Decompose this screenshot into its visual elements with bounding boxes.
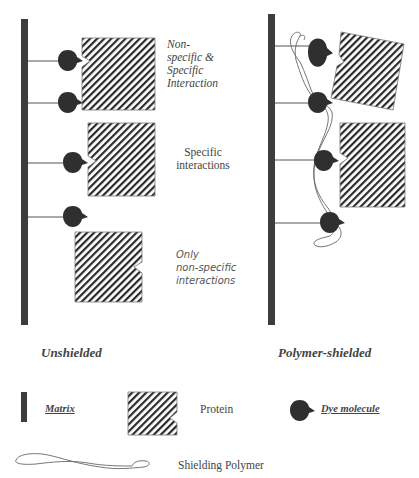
annotation-specific: Specific interactions [168,146,238,172]
legend-label-polymer: Shielding Polymer [178,459,264,472]
legend-label-dye: Dye molecule [321,403,380,415]
unshielded-panel [21,19,155,325]
dye-molecule-icon [58,50,83,71]
annotation-line: interactions [168,159,238,172]
protein-block [340,123,405,207]
protein-block [88,123,155,196]
annotation-line: specific & [167,51,218,64]
dye-molecule-icon [63,152,88,173]
dye-legend-icon [290,400,315,421]
dye-molecule-icon [308,39,333,67]
annotation-line: non-specific [176,261,236,274]
annotation-nonspecific-specific: Non- specific & Specific Interaction [167,38,218,90]
polymer-legend-icon [16,454,149,469]
matrix-bar-right [268,14,275,325]
protein-legend-icon [128,392,177,435]
panel-title-shielded: Polymer-shielded [278,346,371,361]
dye-molecule-icon [320,212,345,233]
annotation-line: Non- [167,38,218,51]
annotation-only-nonspecific: Only non-specific interactions [176,248,236,287]
dye-molecule-icon [308,92,333,113]
dye-molecule-icon [58,92,83,113]
dye-molecule-icon [63,206,88,227]
protein-block [82,38,155,110]
matrix-bar-left [21,19,28,325]
shielding-polymer-strand [300,35,305,40]
legend-label-matrix: Matrix [45,403,75,415]
dye-molecule-icon [314,150,339,171]
annotation-line: Interaction [167,77,218,90]
protein-block [75,232,142,302]
annotation-line: Specific [167,64,218,77]
legend-label-protein: Protein [200,403,233,416]
matrix-legend-icon [21,392,27,422]
panel-title-unshielded: Unshielded [41,346,102,361]
annotation-line: Only [176,248,236,261]
annotation-line: interactions [176,274,236,287]
protein-block [331,32,404,110]
shielded-panel [268,14,405,325]
annotation-line: Specific [168,146,238,159]
